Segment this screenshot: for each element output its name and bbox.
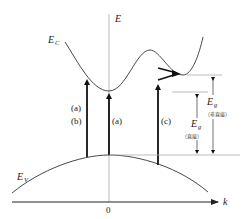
indirect-gap-note: （非直接）	[205, 111, 230, 118]
k-axis-label: k	[223, 196, 228, 207]
origin-label: 0	[106, 205, 111, 215]
transition-label-c: (c)	[161, 116, 171, 126]
indirect-gap-label: E	[206, 96, 213, 107]
band-diagram: E k 0 E C E V (a) (b) (a) (c) E g （直接） E…	[0, 0, 252, 219]
transition-label-b: (b)	[71, 116, 82, 126]
conduction-band-label: E	[47, 34, 54, 45]
conduction-band-subscript: C	[55, 39, 60, 46]
energy-axis-label: E	[114, 13, 121, 24]
transition-label-a: (a)	[112, 116, 122, 126]
conduction-band-curve	[65, 37, 203, 91]
transition-label-a-top: (a)	[71, 103, 81, 113]
phonon-arrowhead	[172, 70, 181, 77]
valence-band-label: E	[16, 171, 23, 182]
direct-gap-note: （直接）	[182, 133, 202, 140]
valence-band-subscript: V	[24, 176, 29, 183]
valence-band-curve	[12, 155, 208, 193]
direct-gap-label: E	[190, 118, 197, 129]
